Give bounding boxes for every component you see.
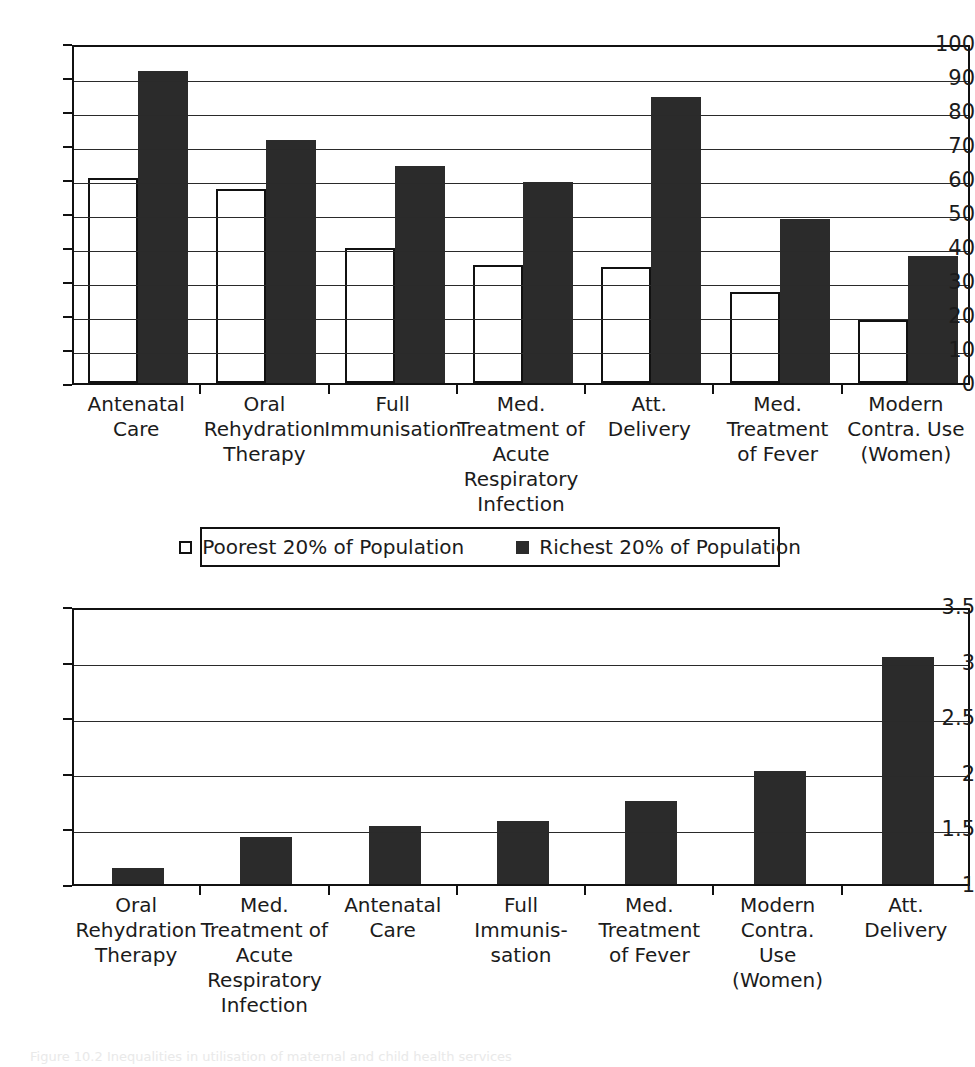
- x-axis-label-line: of Fever: [705, 442, 849, 467]
- x-axis-label-line: Med.: [705, 392, 849, 417]
- plot-area-chart2: [72, 608, 970, 886]
- x-axis-label-line: Contra. Use: [834, 417, 975, 442]
- y-tick-mark: [63, 607, 72, 609]
- x-axis-label-line: Full: [449, 893, 593, 918]
- y-tick-label: 30: [917, 272, 975, 293]
- x-axis-label-line: Att.: [577, 392, 721, 417]
- y-tick-label: 3.5: [917, 597, 975, 618]
- x-axis-label: OralRehydrationTherapy: [64, 893, 208, 968]
- y-tick-label: 60: [917, 170, 975, 191]
- y-tick-mark: [63, 829, 72, 831]
- x-axis-label-line: Antenatal: [321, 893, 465, 918]
- gridline: [74, 285, 968, 286]
- x-axis-label-line: Treatment: [577, 918, 721, 943]
- x-axis-label: Med.Treatment ofAcuteRespiratoryInfectio…: [192, 893, 336, 1018]
- gridline: [74, 217, 968, 218]
- plot-area-chart1: [72, 45, 970, 385]
- x-axis-label-line: Therapy: [192, 442, 336, 467]
- y-tick-label: 40: [917, 238, 975, 259]
- x-axis-label: AntenatalCare: [321, 893, 465, 943]
- y-tick-mark: [63, 663, 72, 665]
- y-tick-mark: [63, 885, 72, 887]
- x-axis-label-line: (Women): [705, 968, 849, 993]
- x-axis-label-line: Modern: [834, 392, 975, 417]
- y-tick-label: 90: [917, 68, 975, 89]
- x-axis-label-line: Care: [321, 918, 465, 943]
- bar-chart-ratio: 11.522.533.5 OralRehydrationTherapyMed.T…: [0, 575, 975, 1035]
- x-axis-label-line: Respiratory: [449, 467, 593, 492]
- gridline: [74, 149, 968, 150]
- x-axis-label-line: sation: [449, 943, 593, 968]
- x-axis-label: Med.Treatment ofAcuteRespiratoryInfectio…: [449, 392, 593, 517]
- x-axis-label: AntenatalCare: [64, 392, 208, 442]
- x-axis-label-line: Care: [64, 417, 208, 442]
- x-axis-label-line: Oral: [64, 893, 208, 918]
- bar: [395, 166, 445, 383]
- y-tick-mark: [63, 180, 72, 182]
- x-axis-label-line: Use: [705, 943, 849, 968]
- legend-entry-richest: Richest 20% of Population: [516, 537, 801, 557]
- y-tick-label: 10: [917, 340, 975, 361]
- bars-container-chart2: [74, 610, 968, 884]
- y-tick-label: 100: [917, 34, 975, 55]
- x-axis-label: Med.Treatmentof Fever: [577, 893, 721, 968]
- gridline: [74, 776, 968, 777]
- x-axis-label: FullImmunisation: [321, 392, 465, 442]
- x-axis-label-line: Modern: [705, 893, 849, 918]
- bar: [240, 837, 292, 884]
- x-axis-label-line: Contra.: [705, 918, 849, 943]
- y-tick-label: 1.5: [917, 819, 975, 840]
- filled-square-icon: [516, 541, 529, 554]
- x-axis-label: Att.Delivery: [834, 893, 975, 943]
- bar: [473, 265, 523, 383]
- gridline: [74, 832, 968, 833]
- x-axis-label: Att.Delivery: [577, 392, 721, 442]
- x-axis-label-line: Acute: [449, 442, 593, 467]
- y-tick-mark: [63, 384, 72, 386]
- figure-caption: Figure 10.2 Inequalities in utilisation …: [30, 1049, 512, 1064]
- x-axis-label-line: Delivery: [834, 918, 975, 943]
- x-axis-label-line: Therapy: [64, 943, 208, 968]
- gridline: [74, 81, 968, 82]
- x-axis-label-line: Acute: [192, 943, 336, 968]
- y-tick-mark: [63, 316, 72, 318]
- y-tick-mark: [63, 718, 72, 720]
- legend-label-poorest: Poorest 20% of Population: [202, 537, 464, 557]
- legend-entry-poorest: Poorest 20% of Population: [179, 537, 464, 557]
- bar: [138, 71, 188, 383]
- gridline: [74, 665, 968, 666]
- y-tick-mark: [63, 282, 72, 284]
- x-axis-label-line: Rehydration: [64, 918, 208, 943]
- y-tick-label: 2.5: [917, 708, 975, 729]
- grouped-bar-chart-utilisation: 0102030405060708090100 AntenatalCareOral…: [0, 0, 975, 520]
- bar: [780, 219, 830, 383]
- x-axis-label-line: Att.: [834, 893, 975, 918]
- gridline: [74, 251, 968, 252]
- x-axis-label: FullImmunis-sation: [449, 893, 593, 968]
- legend: Poorest 20% of Population Richest 20% of…: [200, 527, 780, 567]
- x-axis-label: ModernContra. Use(Women): [834, 392, 975, 467]
- figure-page: 0102030405060708090100 AntenatalCareOral…: [0, 0, 975, 1067]
- x-axis-label-line: Immunisation: [321, 417, 465, 442]
- gridline: [74, 115, 968, 116]
- legend-label-richest: Richest 20% of Population: [539, 537, 801, 557]
- y-tick-mark: [63, 78, 72, 80]
- bar: [730, 292, 780, 383]
- y-tick-label: 2: [917, 764, 975, 785]
- y-tick-label: 70: [917, 136, 975, 157]
- y-tick-label: 20: [917, 306, 975, 327]
- bars-container-chart1: [74, 47, 968, 383]
- bar: [497, 821, 549, 884]
- x-axis-label-line: Med.: [192, 893, 336, 918]
- y-tick-mark: [63, 350, 72, 352]
- gridline: [74, 721, 968, 722]
- x-axis-label-line: Immunis-: [449, 918, 593, 943]
- x-axis-label: OralRehydrationTherapy: [192, 392, 336, 467]
- x-axis-label-line: Rehydration: [192, 417, 336, 442]
- x-axis-label-line: of Fever: [577, 943, 721, 968]
- bar: [754, 771, 806, 884]
- x-axis-label-line: (Women): [834, 442, 975, 467]
- y-tick-mark: [63, 146, 72, 148]
- open-square-icon: [179, 541, 192, 554]
- bar: [266, 140, 316, 383]
